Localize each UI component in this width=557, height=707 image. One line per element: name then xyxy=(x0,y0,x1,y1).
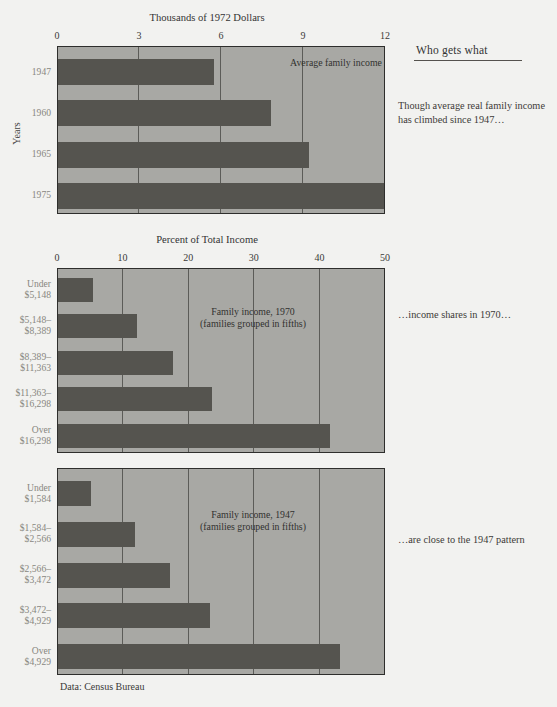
y-axis-category-label-line: 1947 xyxy=(0,66,51,77)
commentary-note-2: …income shares in 1970… xyxy=(398,308,550,322)
y-axis-category-label-line: $1,584 xyxy=(0,493,51,504)
bar xyxy=(58,351,173,375)
plot-annotation: Family income, 1947(families grouped in … xyxy=(158,509,348,533)
y-axis-category-label-line: $11,363 xyxy=(0,362,51,373)
plot-annotation-line-2: (families grouped in fifths) xyxy=(158,521,348,533)
y-axis-category-label: 1960 xyxy=(0,107,51,118)
y-axis-category-label-line: $2,566 xyxy=(0,533,51,544)
plot-area-income-shares-1947: Family income, 1947(families grouped in … xyxy=(57,468,385,675)
y-axis-category-label-line: $16,298 xyxy=(0,435,51,446)
x-axis-tick-label: 10 xyxy=(118,252,128,263)
bar xyxy=(58,563,170,588)
commentary-column: Who gets what Though average real family… xyxy=(398,0,557,707)
plot-annotation-line-1: Family income, 1970 xyxy=(158,306,348,318)
commentary-note-3: …are close to the 1947 pattern xyxy=(398,533,550,547)
y-axis-category-label: $8,389–$11,363 xyxy=(0,351,51,373)
chart-title-percent-of-total-income: Percent of Total Income xyxy=(8,234,406,245)
bar xyxy=(58,644,340,669)
bar xyxy=(58,314,137,338)
bar xyxy=(58,59,214,85)
chart-average-family-income: Thousands of 1972 Dollars 036912 Average… xyxy=(0,0,398,230)
chart-income-shares-1970: Percent of Total Income 01020304050 Fami… xyxy=(0,230,398,458)
bar xyxy=(58,603,210,628)
panel-title-rule xyxy=(414,60,522,61)
y-axis-category-label: Over$4,929 xyxy=(0,645,51,667)
plot-area-average-family-income: Average family income xyxy=(57,46,385,214)
y-axis-category-label: Under$5,148 xyxy=(0,278,51,300)
plot-area-income-shares-1970: Family income, 1970(families grouped in … xyxy=(57,268,385,453)
y-axis-category-label-line: $3,472– xyxy=(0,604,51,615)
y-axis-labels-income-brackets-1947: Under$1,584$1,584–$2,566$2,566–$3,472$3,… xyxy=(0,468,53,675)
plot-annotation-line-1: Family income, 1947 xyxy=(158,509,348,521)
y-axis-labels-income-brackets-1970: Under$5,148$5,148–$8,389$8,389–$11,363$1… xyxy=(0,268,53,453)
source-note: Data: Census Bureau xyxy=(60,681,144,692)
x-axis-ticks-average-family-income: 036912 xyxy=(57,30,385,44)
chart-income-shares-1947: Family income, 1947(families grouped in … xyxy=(0,458,398,707)
x-axis-tick-label: 12 xyxy=(380,30,390,41)
y-axis-category-label-line: $4,929 xyxy=(0,656,51,667)
x-axis-tick-label: 6 xyxy=(219,30,224,41)
y-axis-category-label: 1965 xyxy=(0,148,51,159)
y-axis-category-label-line: $5,148– xyxy=(0,314,51,325)
y-axis-category-label-line: Over xyxy=(0,645,51,656)
y-axis-category-label: $3,472–$4,929 xyxy=(0,604,51,626)
y-axis-category-label: 1975 xyxy=(0,189,51,200)
y-axis-category-label: Over$16,298 xyxy=(0,424,51,446)
commentary-note-1: Though average real family income has cl… xyxy=(398,99,550,126)
chart-title-average-family-income: Thousands of 1972 Dollars xyxy=(8,12,406,23)
y-axis-category-label-line: $3,472 xyxy=(0,574,51,585)
y-axis-category-label-line: Under xyxy=(0,278,51,289)
x-axis-tick-label: 20 xyxy=(183,252,193,263)
y-axis-category-label-line: $11,363– xyxy=(0,387,51,398)
y-axis-category-label: Under$1,584 xyxy=(0,482,51,504)
y-axis-category-label: 1947 xyxy=(0,66,51,77)
bar xyxy=(58,142,309,168)
x-axis-tick-label: 30 xyxy=(249,252,259,263)
x-axis-tick-label: 9 xyxy=(301,30,306,41)
y-axis-category-label-line: $5,148 xyxy=(0,289,51,300)
bar xyxy=(58,100,271,126)
y-axis-category-label: $2,566–$3,472 xyxy=(0,563,51,585)
bar xyxy=(58,387,212,411)
y-axis-category-label-line: $2,566– xyxy=(0,563,51,574)
y-axis-category-label: $11,363–$16,298 xyxy=(0,387,51,409)
bar xyxy=(58,481,91,506)
y-axis-category-label-line: 1960 xyxy=(0,107,51,118)
plot-annotation-line-2: (families grouped in fifths) xyxy=(158,318,348,330)
y-axis-category-label-line: $1,584– xyxy=(0,522,51,533)
x-axis-tick-label: 50 xyxy=(380,252,390,263)
x-axis-tick-label: 40 xyxy=(314,252,324,263)
plot-annotation: Average family income xyxy=(290,57,382,69)
y-axis-category-label-line: $16,298 xyxy=(0,398,51,409)
y-axis-category-label-line: $8,389– xyxy=(0,351,51,362)
y-axis-category-label-line: 1975 xyxy=(0,189,51,200)
plot-annotation: Family income, 1970(families grouped in … xyxy=(158,306,348,330)
y-axis-category-label-line: Over xyxy=(0,424,51,435)
bar xyxy=(58,278,93,302)
y-axis-title-years: Years xyxy=(11,104,22,164)
bar xyxy=(58,183,385,209)
x-axis-tick-label: 3 xyxy=(137,30,142,41)
y-axis-category-label: $5,148–$8,389 xyxy=(0,314,51,336)
y-axis-category-label-line: Under xyxy=(0,482,51,493)
y-axis-category-label: $1,584–$2,566 xyxy=(0,522,51,544)
x-axis-tick-label: 0 xyxy=(55,30,60,41)
x-axis-ticks-income-shares-1970: 01020304050 xyxy=(57,252,385,266)
x-axis-tick-label: 0 xyxy=(55,252,60,263)
y-axis-category-label-line: $4,929 xyxy=(0,615,51,626)
y-axis-category-label-line: 1965 xyxy=(0,148,51,159)
bar xyxy=(58,522,135,547)
bar xyxy=(58,424,330,448)
y-axis-category-label-line: $8,389 xyxy=(0,325,51,336)
y-axis-labels-years: 1947196019651975 xyxy=(0,46,53,214)
panel-title: Who gets what xyxy=(416,44,488,56)
